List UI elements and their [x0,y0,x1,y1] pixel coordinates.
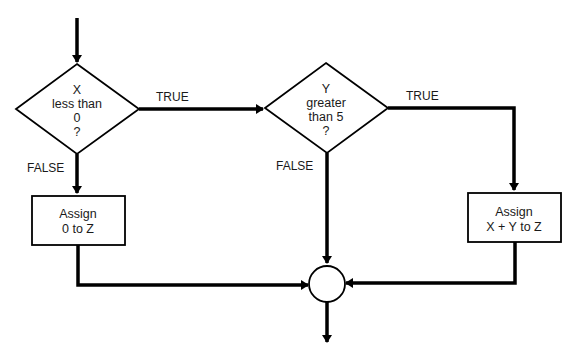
flowchart-canvas: X less than 0 ? TRUE FALSE Assign 0 to Z… [0,0,578,361]
d2-false-label: FALSE [276,159,313,173]
process2-line2: X + Y to Z [486,220,542,234]
d2-true-connector [388,108,514,190]
decision1-line4: ? [74,125,81,139]
decision1-line1: X [73,83,82,97]
process2-line1: Assign [495,205,533,219]
decision1-line3: 0 [74,111,81,125]
junction-connector-circle [309,266,345,302]
decision2-line4: ? [323,124,330,138]
p1-to-junction-connector [78,245,308,285]
d1-false-label: FALSE [27,161,64,175]
d2-true-label: TRUE [406,89,439,103]
p2-to-junction-connector [346,242,515,283]
process1-line1: Assign [59,207,97,221]
decision2-line1: Y [322,82,331,96]
d1-true-label: TRUE [156,90,189,104]
process1-line2: 0 to Z [62,222,94,236]
decision2-line2: greater [306,96,346,110]
decision2-line3: than 5 [309,110,344,124]
decision1-line2: less than [52,97,102,111]
